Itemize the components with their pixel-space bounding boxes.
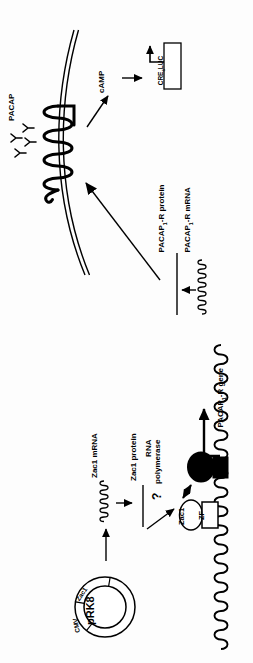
zac1-oval-label: Zac1	[178, 508, 186, 525]
zac1-polymerase-interaction-double-arrow	[183, 485, 191, 498]
arrow-zac1-to-dna	[147, 509, 174, 529]
reporter-box-label: CRE6LUC	[157, 56, 167, 85]
receptor-c-terminus-tail	[46, 190, 58, 202]
figure-canvas: PACAP cAMP CRE6LUC PACAP1-R protein PACA…	[0, 0, 253, 663]
pacap-ligand-icon	[23, 124, 34, 132]
pacapr-protein-label-sub: 1	[162, 222, 168, 225]
question-mark-label: ?	[151, 493, 164, 500]
pacapr-mrna-label-sub: 1	[188, 222, 194, 225]
arrow-protein-to-membrane	[86, 183, 160, 280]
tata-label: TATA	[220, 458, 229, 478]
pacapr-protein-label-post: -R protein	[157, 185, 166, 223]
pacapr-mrna-label-post: -R mRNA	[183, 187, 192, 222]
pacapr-gene-label: PACAP1-R gene	[216, 368, 229, 428]
pacapr-mrna-wave	[198, 260, 206, 314]
pacapr-gene-label-post: -R gene	[216, 368, 225, 397]
rna-polymerase-label-line2: polymerase	[154, 440, 163, 484]
pacapr-protein-label-pre: PACAP	[157, 225, 166, 252]
pacapr-mrna-label: PACAP1-R mRNA	[183, 187, 196, 252]
pacap-ligand-icon	[11, 134, 22, 142]
pacapr-gene-label-pre: PACAP	[216, 400, 225, 427]
pacapr-mrna-label-pre: PACAP	[183, 225, 192, 252]
zac1-protein-label: Zac1 protein	[129, 433, 138, 481]
camp-label: cAMP	[97, 71, 106, 93]
diagram-artwork	[0, 0, 253, 663]
reporter-box-label-pre: CRE	[157, 72, 164, 86]
plasmid-name-label: pRK8	[84, 596, 96, 625]
pacap-receptor-coil	[44, 106, 72, 190]
rna-polymerase-label: RNA polymerase	[145, 440, 162, 484]
zf-box-label: ZF	[198, 511, 206, 520]
zac1-mrna-label: Zac1 mRNA	[90, 433, 99, 478]
pacapr-gene-label-sub: 1	[221, 397, 227, 400]
pacapr-protein-label: PACAP1-R protein	[157, 185, 170, 253]
reporter-box-label-post: LUC	[157, 56, 164, 69]
zac1-mrna-wave	[100, 481, 108, 522]
reporter-box-label-sub: 6	[161, 69, 166, 71]
arrow-receptor-to-camp	[87, 96, 108, 127]
pacap-ligand-icon	[15, 149, 26, 157]
pacap-ligand-label: PACAP	[7, 94, 16, 121]
pacap-ligand-icon	[25, 138, 36, 146]
